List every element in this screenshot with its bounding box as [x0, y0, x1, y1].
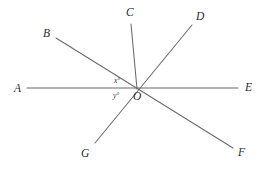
label-G: G: [81, 148, 89, 159]
label-F: F: [238, 147, 245, 158]
label-A: A: [14, 83, 21, 94]
line-GD: [95, 25, 192, 143]
label-D: D: [196, 11, 204, 22]
label-E: E: [245, 82, 252, 93]
label-B: B: [43, 28, 50, 39]
ray-OC: [131, 24, 137, 89]
diagram-lines: [27, 24, 238, 148]
angle-label-y: y°: [113, 90, 119, 101]
diagram-canvas: A B C D E F G O x° y°: [0, 0, 264, 171]
line-BF: [56, 38, 233, 148]
angle-label-x: x°: [114, 75, 120, 86]
label-O: O: [133, 91, 141, 102]
geometry-figure: [0, 0, 264, 171]
label-C: C: [126, 7, 134, 18]
